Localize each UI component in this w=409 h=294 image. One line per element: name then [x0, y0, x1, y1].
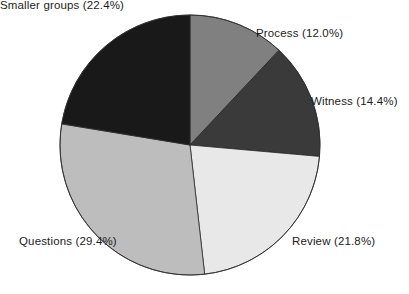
- pie-label-review: Review (21.8%): [292, 236, 375, 248]
- pie-label-smaller-groups: Smaller groups (22.4%): [0, 0, 124, 12]
- pie-label-questions: Questions (29.4%): [19, 236, 117, 248]
- pie-slice-questions: [60, 124, 205, 275]
- pie-chart-figure: Process (12.0%) Witness (14.4%) Review (…: [0, 0, 409, 294]
- pie-chart-canvas: [0, 0, 409, 294]
- pie-slice-smaller-groups: [62, 15, 190, 145]
- pie-label-witness: Witness (14.4%): [311, 96, 398, 108]
- pie-label-process: Process (12.0%): [256, 28, 343, 40]
- pie-slice-review: [190, 145, 320, 274]
